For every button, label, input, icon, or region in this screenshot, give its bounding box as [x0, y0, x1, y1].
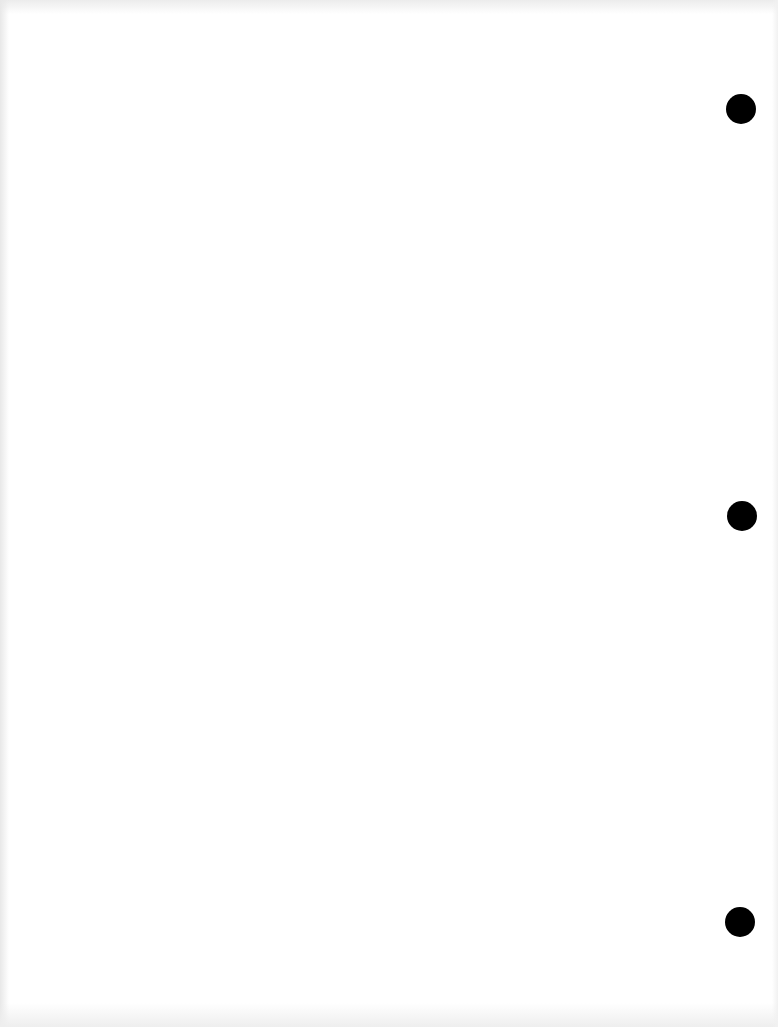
punch-hole-middle — [727, 501, 757, 531]
scan-edge-shadow-top — [0, 0, 778, 14]
punch-hole-top — [726, 94, 756, 124]
punch-hole-bottom — [725, 907, 755, 937]
scan-edge-shadow-right — [772, 0, 778, 1027]
scan-edge-shadow-left — [0, 0, 9, 1027]
scan-edge-shadow-bottom — [0, 1003, 778, 1027]
blank-page — [0, 0, 778, 1027]
